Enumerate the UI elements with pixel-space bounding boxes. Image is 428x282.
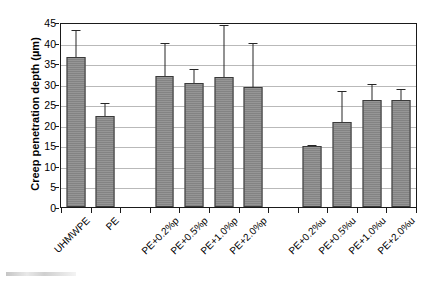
y-tick-mark [55,85,59,86]
error-bar [223,25,224,77]
error-bar [342,91,343,122]
bar-slot [357,24,387,207]
x-tick-mark [61,208,62,213]
error-bar-cap [249,43,258,44]
bar-slot [209,24,239,207]
bars-layer [61,24,416,207]
error-bar-cap [338,91,347,92]
x-tick-label: PE [104,215,121,232]
y-tick-label: 5 [30,181,56,193]
x-tick-label: PE+0.5%u [316,215,357,256]
x-tick-mark [239,208,240,213]
error-bar-cap [219,25,228,26]
x-tick-mark [357,208,358,213]
y-tick-label: 10 [30,161,56,173]
x-tick-label: PE+1.0%p [198,215,239,256]
y-tick-mark [55,126,59,127]
x-tick-label: PE+0.2%p [139,215,180,256]
x-tick-label: PE+0.2%u [287,215,328,256]
bar-slot [327,24,357,207]
error-bar-cap [101,103,110,104]
bar-chart-figure: Creep penetration depth (µm) 05101520253… [0,0,428,282]
y-tick-label: 25 [30,99,56,111]
error-bar [164,43,165,76]
bar[interactable] [333,122,352,207]
bar-slot [150,24,180,207]
y-tick-mark [55,146,59,147]
x-tick-label: PE+1.0%u [346,215,387,256]
y-tick-label: 30 [30,79,56,91]
error-bar [105,103,106,116]
bar-slot [239,24,269,207]
error-bar-cap [190,69,199,70]
y-tick-mark [55,105,59,106]
y-tick-label: 45 [30,17,56,29]
error-bar-cap [397,89,406,90]
y-tick-mark [55,187,59,188]
x-tick-label: PE+2.0%u [376,215,417,256]
y-tick-mark [55,208,59,209]
x-tick-mark [386,208,387,213]
y-tick-label: 15 [30,140,56,152]
bar[interactable] [214,77,233,207]
x-tick-label: PE+0.5%p [169,215,210,256]
bar[interactable] [66,57,85,207]
x-tick-mark [91,208,92,213]
bar[interactable] [155,76,174,207]
bar-slot [61,24,91,207]
bar[interactable] [244,87,263,207]
y-axis-ticks: 051015202530354045 [26,23,56,208]
scan-artifact [6,272,76,276]
error-bar-cap [160,43,169,44]
y-tick-mark [55,23,59,24]
error-bar [75,30,76,56]
x-tick-mark [120,208,121,213]
error-bar [401,89,402,100]
bar-slot [179,24,209,207]
y-tick-mark [55,44,59,45]
error-bar-cap [308,145,317,146]
x-tick-label: PE+2.0%p [228,215,269,256]
bar-slot [298,24,328,207]
x-tick-label: UHMWPE [52,215,92,255]
error-bar-cap [367,84,376,85]
y-tick-label: 20 [30,120,56,132]
bar-slot [91,24,121,207]
x-tick-mark [209,208,210,213]
y-tick-label: 40 [30,38,56,50]
bar[interactable] [96,116,115,207]
bar[interactable] [185,83,204,207]
x-tick-mark [268,208,269,213]
y-tick-mark [55,64,59,65]
bar-slot [386,24,416,207]
error-bar [253,43,254,88]
error-bar [194,69,195,84]
y-tick-label: 0 [30,202,56,214]
x-tick-mark [416,208,417,213]
x-tick-mark [327,208,328,213]
x-tick-mark [298,208,299,213]
y-tick-mark [55,167,59,168]
bar[interactable] [362,100,381,207]
y-tick-label: 35 [30,58,56,70]
bar[interactable] [392,100,411,207]
x-tick-mark [150,208,151,213]
x-tick-mark [179,208,180,213]
bar[interactable] [303,146,322,207]
error-bar [371,84,372,100]
error-bar-cap [71,30,80,31]
